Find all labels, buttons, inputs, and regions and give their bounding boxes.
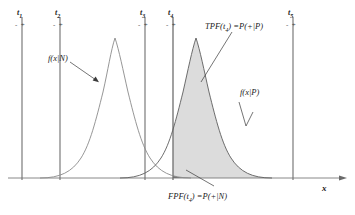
negative-label-leader-line — [70, 62, 96, 80]
x-axis-arrowhead — [339, 175, 347, 180]
tpf-label-leader-line — [201, 32, 232, 82]
threshold-label-t4: t4 — [168, 9, 173, 19]
x-axis-label: x — [322, 184, 327, 193]
threshold-signs-t2: - + — [53, 22, 63, 29]
threshold-signs-t3: - + — [138, 22, 148, 29]
fpf-annotation: FPF(t4) =P(+|N) — [168, 192, 227, 203]
roc-threshold-figure — [0, 0, 355, 215]
threshold-signs-t5: - + — [286, 22, 296, 29]
threshold-signs-t4: - + — [166, 22, 176, 29]
threshold-signs-t1: - + — [15, 22, 25, 29]
threshold-label-t2: t2 — [55, 9, 60, 19]
positive-density-label: f(x|P) — [240, 88, 259, 97]
positive-label-leader-line — [239, 102, 253, 126]
negative-label-arrowhead — [93, 76, 99, 82]
negative-density-label: f(x|N) — [48, 54, 68, 63]
tpf-annotation: TPF(t4) =P(+|P) — [205, 22, 263, 33]
threshold-label-t1: t1 — [17, 9, 22, 19]
threshold-label-t5: t5 — [288, 9, 293, 19]
tpf-shaded-region — [120, 38, 272, 178]
threshold-label-t3: t3 — [140, 9, 145, 19]
